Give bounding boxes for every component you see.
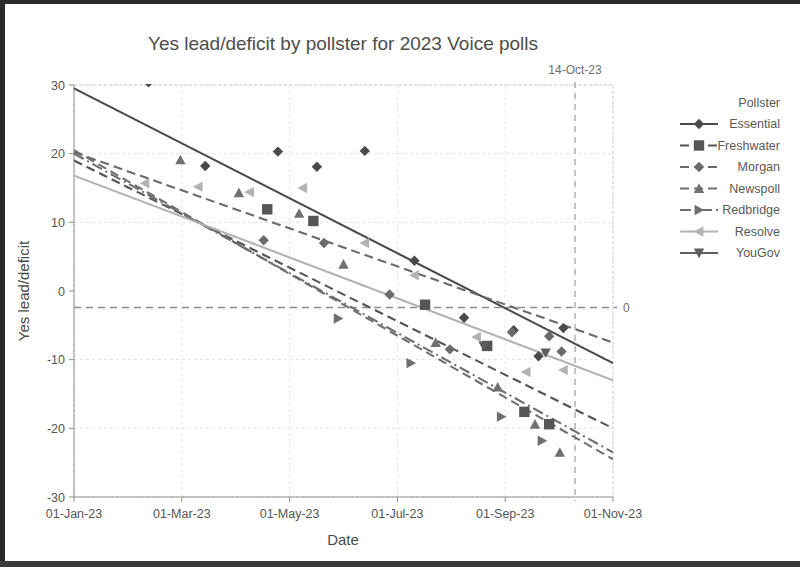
data-point bbox=[530, 419, 540, 429]
trend-lines bbox=[74, 88, 613, 459]
legend-item-essential[interactable]: Essential bbox=[680, 117, 780, 131]
legend-item-freshwater[interactable]: Freshwater bbox=[680, 139, 780, 153]
data-point bbox=[694, 226, 704, 236]
data-point bbox=[558, 323, 568, 333]
legend-label: Morgan bbox=[738, 160, 780, 174]
legend-title: Pollster bbox=[738, 96, 780, 110]
data-point bbox=[694, 162, 704, 172]
trend-line bbox=[74, 161, 613, 429]
legend[interactable]: EssentialFreshwaterMorganNewspollRedbrid… bbox=[680, 117, 781, 260]
data-point bbox=[312, 162, 322, 172]
y-tick-label: 0 bbox=[58, 285, 65, 299]
x-tick-label: 01-Jul-23 bbox=[371, 507, 423, 521]
data-point bbox=[294, 208, 304, 218]
data-point bbox=[694, 119, 704, 129]
y-tick-label: 20 bbox=[51, 147, 65, 161]
data-point bbox=[308, 216, 318, 226]
trend-line bbox=[74, 176, 613, 381]
y-tick-label: -20 bbox=[47, 422, 65, 436]
data-point-markers bbox=[140, 77, 569, 457]
legend-label: Newspoll bbox=[729, 182, 780, 196]
data-point bbox=[273, 146, 283, 156]
x-tick-label: 01-Mar-23 bbox=[153, 507, 211, 521]
data-point bbox=[334, 313, 344, 323]
legend-item-morgan[interactable]: Morgan bbox=[680, 160, 780, 174]
legend-label: Redbridge bbox=[722, 203, 780, 217]
data-point bbox=[143, 77, 153, 87]
y-tick-label: 30 bbox=[51, 79, 65, 93]
data-point bbox=[420, 300, 430, 310]
referendum-date-label: 14-Oct-23 bbox=[548, 63, 602, 77]
x-tick-labels: 01-Jan-2301-Mar-2301-May-2301-Jul-2301-S… bbox=[46, 507, 642, 521]
poll-trend-chart: Yes lead/deficit by pollster for 2023 Vo… bbox=[5, 4, 800, 561]
data-point bbox=[538, 435, 548, 445]
data-point bbox=[544, 419, 554, 429]
data-point bbox=[695, 205, 705, 215]
data-point bbox=[360, 238, 370, 248]
legend-item-newspoll[interactable]: Newspoll bbox=[680, 182, 780, 196]
data-point bbox=[140, 178, 150, 188]
y-axis-title: Yes lead/deficit bbox=[15, 240, 32, 341]
legend-label: Resolve bbox=[735, 225, 780, 239]
y-tick-label: 10 bbox=[51, 216, 65, 230]
x-tick-label: 01-Nov-23 bbox=[584, 507, 642, 521]
data-point bbox=[319, 238, 329, 248]
data-point bbox=[244, 187, 254, 197]
page-border-bottom bbox=[0, 561, 800, 567]
legend-label: Essential bbox=[729, 117, 780, 131]
data-point bbox=[200, 161, 210, 171]
data-point bbox=[694, 140, 704, 150]
data-point bbox=[338, 259, 348, 269]
x-tick-label: 01-Jan-23 bbox=[46, 507, 102, 521]
trend-line bbox=[74, 88, 613, 363]
legend-item-resolve[interactable]: Resolve bbox=[680, 225, 780, 239]
trend-line bbox=[74, 150, 613, 459]
data-point bbox=[262, 204, 272, 214]
data-point bbox=[558, 365, 568, 375]
x-tick-label: 01-Sep-23 bbox=[476, 507, 534, 521]
data-point bbox=[519, 407, 529, 417]
legend-label: Freshwater bbox=[717, 139, 780, 153]
data-point bbox=[493, 382, 503, 392]
x-tick-label: 01-May-23 bbox=[260, 507, 320, 521]
data-point bbox=[193, 181, 203, 191]
data-point bbox=[384, 289, 394, 299]
legend-item-yougov[interactable]: YouGov bbox=[680, 246, 781, 260]
y-tick-label: -10 bbox=[47, 353, 65, 367]
data-point bbox=[298, 183, 308, 193]
legend-item-redbridge[interactable]: Redbridge bbox=[680, 203, 780, 217]
chart-title: Yes lead/deficit by pollster for 2023 Vo… bbox=[148, 33, 538, 54]
x-axis-title: Date bbox=[327, 531, 359, 548]
data-point bbox=[471, 332, 481, 342]
screenshot-page: Yes lead/deficit by pollster for 2023 Vo… bbox=[0, 0, 800, 570]
data-point bbox=[259, 235, 269, 245]
data-point bbox=[555, 447, 565, 457]
data-point bbox=[521, 367, 531, 377]
data-point bbox=[175, 155, 185, 165]
y-tick-labels: 3020100-10-20-30 bbox=[47, 79, 65, 505]
data-point bbox=[360, 146, 370, 156]
data-point bbox=[556, 346, 566, 356]
legend-label: YouGov bbox=[736, 246, 781, 260]
grid-lines bbox=[74, 85, 613, 497]
zero-right-label: 0 bbox=[623, 301, 630, 315]
data-point bbox=[445, 344, 455, 354]
chart-canvas: Yes lead/deficit by pollster for 2023 Vo… bbox=[5, 4, 800, 561]
trend-line bbox=[74, 152, 613, 342]
y-tick-label: -30 bbox=[47, 491, 65, 505]
data-point bbox=[497, 411, 507, 421]
data-point bbox=[234, 188, 244, 198]
trend-line bbox=[74, 154, 613, 453]
plot-area-border bbox=[74, 85, 613, 497]
